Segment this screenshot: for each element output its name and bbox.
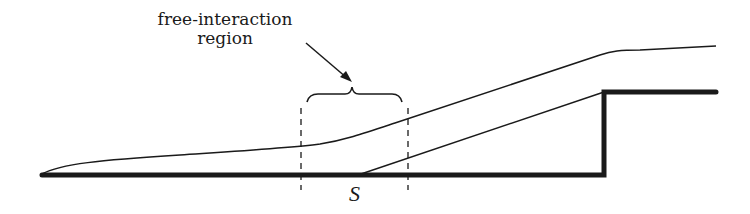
flow-diagram — [0, 0, 750, 214]
brace-icon — [307, 87, 402, 102]
boundary-layer-edge — [42, 46, 716, 174]
separation-point-label: S — [349, 181, 360, 207]
wall-step — [42, 92, 716, 175]
arrow-icon — [306, 43, 352, 82]
separation-streamline — [358, 92, 604, 175]
